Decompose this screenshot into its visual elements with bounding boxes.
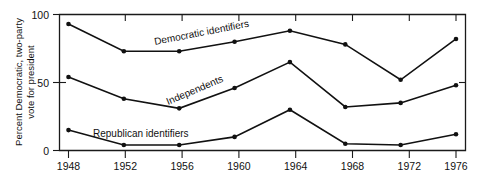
data-point	[232, 86, 237, 91]
data-point	[398, 77, 403, 82]
y-axis-label-line1: Percent Democratic, two-party	[13, 18, 24, 146]
data-point	[177, 106, 182, 111]
data-point	[122, 49, 127, 54]
series-group-0	[66, 22, 458, 82]
line-chart: 100 50 0 1948 1952 1956 1960 1	[0, 0, 480, 180]
series-annotations: Democratic identifiers Independents Repu…	[93, 18, 250, 139]
data-point	[122, 143, 127, 148]
x-tick-label-1968: 1968	[341, 160, 365, 172]
data-point	[232, 135, 237, 140]
x-tick-label-1972: 1972	[398, 160, 422, 172]
x-tick-label-1948: 1948	[57, 160, 81, 172]
data-point	[177, 143, 182, 148]
data-point	[232, 39, 237, 44]
y-axis-label-line2: vote for president	[25, 45, 36, 119]
data-point	[288, 107, 293, 112]
series-group-1	[66, 60, 458, 111]
data-point	[454, 37, 459, 42]
data-point	[454, 83, 459, 88]
data-point	[288, 60, 293, 65]
x-tick-labels: 1948 1952 1956 1960 1964 1968 1972 1976	[57, 160, 468, 172]
series-line-0	[69, 24, 457, 80]
data-point	[398, 143, 403, 148]
x-tick-label-1960: 1960	[227, 160, 251, 172]
data-point	[343, 42, 348, 47]
data-point	[122, 97, 127, 102]
data-point	[66, 22, 71, 27]
y-tick-label-100: 100	[31, 9, 49, 21]
data-point	[343, 105, 348, 110]
data-point	[398, 101, 403, 106]
y-axis-label: Percent Democratic, two-party vote for p…	[13, 18, 36, 146]
x-tick-label-1964: 1964	[284, 160, 308, 172]
data-point	[66, 75, 71, 80]
data-point	[66, 128, 71, 133]
chart-figure: 100 50 0 1948 1952 1956 1960 1	[0, 0, 480, 180]
series-line-1	[69, 62, 457, 108]
data-point	[343, 141, 348, 146]
y-tick-label-50: 50	[37, 77, 49, 89]
x-tick-label-1956: 1956	[170, 160, 194, 172]
series-label-republican: Republican identifiers	[93, 128, 189, 139]
data-point	[454, 132, 459, 137]
series-label-independents: Independents	[164, 73, 224, 107]
y-tick-label-0: 0	[43, 145, 49, 157]
x-tick-label-1952: 1952	[114, 160, 138, 172]
data-point	[288, 29, 293, 34]
x-tick-label-1976: 1976	[444, 160, 468, 172]
data-point	[177, 49, 182, 54]
